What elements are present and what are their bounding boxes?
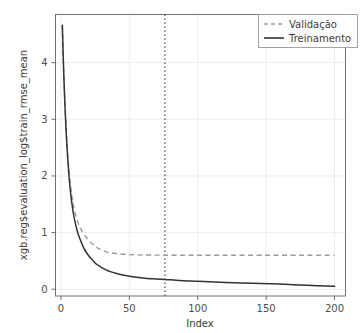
y-tick-label: 3	[41, 114, 47, 125]
chart-background	[0, 0, 363, 333]
x-tick-label: 150	[257, 303, 276, 314]
x-tick-label: 200	[325, 303, 344, 314]
legend[interactable]: Validação Treinamento	[259, 15, 358, 48]
y-tick-label: 2	[41, 170, 47, 181]
x-axis-title: Index	[186, 318, 214, 329]
y-tick-label: 0	[41, 284, 47, 295]
x-tick-label: 0	[58, 303, 64, 314]
x-tick-label: 50	[123, 303, 136, 314]
x-tick-label: 100	[188, 303, 207, 314]
legend-label-validacao: Validação	[289, 19, 337, 30]
y-axis-title: xgb.reg$evaluation_log$train_rmse_mean	[18, 50, 30, 260]
legend-label-treinamento: Treinamento	[288, 33, 351, 44]
y-tick-label: 4	[41, 57, 47, 68]
y-tick-label: 1	[41, 227, 47, 238]
rmse-line-chart: 01234 050100150200 Index xgb.reg$evaluat…	[0, 0, 363, 333]
chart-container: 01234 050100150200 Index xgb.reg$evaluat…	[0, 0, 363, 333]
